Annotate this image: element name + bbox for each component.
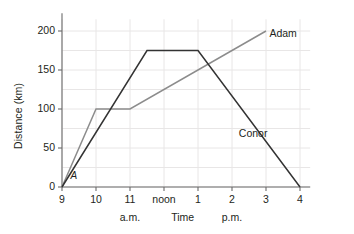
vertical-gridlines [62,19,300,187]
y-tick-label: 200 [15,24,55,36]
x-tick-label: 4 [280,193,320,205]
series-label-conor: Conor [239,127,268,139]
x-axis-ticks [62,187,300,191]
x-axis-period-note: p.m. [207,211,257,223]
y-tick-label: 100 [15,102,55,114]
series-label-adam: Adam [269,27,296,39]
series-line-conor [62,51,300,188]
x-axis-title: Time [158,211,208,223]
y-axis-ticks [58,31,62,187]
y-tick-label: 50 [15,141,55,153]
y-tick-label: 150 [15,63,55,75]
distance-time-chart: Distance (km) 050100150200 91011noon1234… [0,0,354,234]
y-tick-label: 0 [15,180,55,192]
x-axis-period-note: a.m. [105,211,155,223]
point-annotation: A [71,170,78,181]
